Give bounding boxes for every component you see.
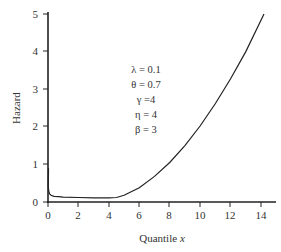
x-tick-label: 0	[45, 209, 51, 221]
param-gamma: γ =4	[136, 94, 156, 105]
x-tick-labels: 0 2 4 6 8 10 12 14	[45, 209, 267, 221]
hazard-curve	[48, 14, 264, 198]
y-axis-title: Hazard	[10, 92, 22, 124]
x-tick-label: 14	[256, 209, 268, 221]
x-tick-label: 2	[75, 209, 81, 221]
y-tick-label: 5	[33, 8, 39, 20]
param-theta: θ = 0.7	[131, 79, 160, 90]
y-tick-label: 3	[33, 83, 39, 95]
param-lambda: λ = 0.1	[131, 64, 160, 75]
x-axis-title-var: x	[179, 232, 185, 244]
y-tick-label: 4	[33, 45, 39, 57]
param-eta: η = 4	[135, 109, 158, 120]
y-tick-labels: 0 1 2 3 4 5	[33, 8, 39, 208]
hazard-chart: 0 1 2 3 4 5 0 2 4 6 8 10 12 14 Hazard Qu…	[0, 0, 281, 252]
x-tick-label: 12	[225, 209, 236, 221]
y-tick-label: 2	[33, 120, 39, 132]
param-beta: β = 3	[135, 124, 157, 135]
x-tick-label: 4	[106, 209, 112, 221]
x-axis-title: Quantile x	[139, 232, 185, 244]
y-tick-label: 1	[33, 158, 39, 170]
x-tick-label: 8	[166, 209, 172, 221]
x-tick-label: 10	[195, 209, 207, 221]
x-axis-title-main: Quantile	[139, 232, 180, 244]
y-tick-label: 0	[33, 196, 39, 208]
parameter-annotations: λ = 0.1 θ = 0.7 γ =4 η = 4 β = 3	[131, 64, 160, 135]
x-tick-label: 6	[136, 209, 142, 221]
